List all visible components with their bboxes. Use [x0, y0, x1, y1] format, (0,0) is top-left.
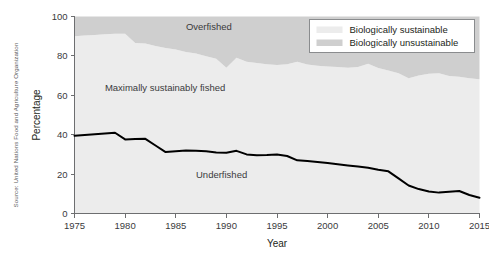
legend-swatch	[317, 40, 343, 47]
source-attribution: Source: United Nations Food and Agricult…	[12, 42, 19, 207]
x-tick-label: 1995	[266, 220, 287, 231]
x-tick-label: 2000	[317, 220, 338, 231]
y-tick-label: 80	[57, 50, 68, 61]
y-tick-label: 40	[57, 129, 68, 140]
y-tick-label: 60	[57, 90, 68, 101]
chart-legend: Biologically sustainableBiologically uns…	[310, 20, 475, 53]
legend-swatch	[317, 27, 343, 34]
y-tick-label: 100	[52, 11, 68, 22]
area-label: Underfished	[196, 169, 247, 180]
y-tick-label: 20	[57, 169, 68, 180]
legend-label: Biologically unsustainable	[350, 37, 459, 48]
x-tick-label: 2010	[418, 220, 439, 231]
x-tick-label: 1990	[216, 220, 237, 231]
area-label: Overfished	[186, 21, 232, 32]
x-tick-label: 1985	[165, 220, 186, 231]
fisheries-stacked-area-chart: 0204060801001975198019851990199520002005…	[0, 0, 489, 266]
area-label: Maximally sustainably fished	[105, 82, 225, 93]
legend-label: Biologically sustainable	[350, 24, 448, 35]
y-axis-title: Percentage	[31, 89, 42, 141]
x-tick-label: 2005	[368, 220, 389, 231]
x-tick-label: 1975	[64, 220, 85, 231]
y-tick-label: 0	[62, 208, 67, 219]
chart-figure: 0204060801001975198019851990199520002005…	[0, 0, 489, 266]
x-axis-title: Year	[267, 238, 288, 249]
x-tick-label: 2015	[469, 220, 489, 231]
x-tick-label: 1980	[115, 220, 136, 231]
